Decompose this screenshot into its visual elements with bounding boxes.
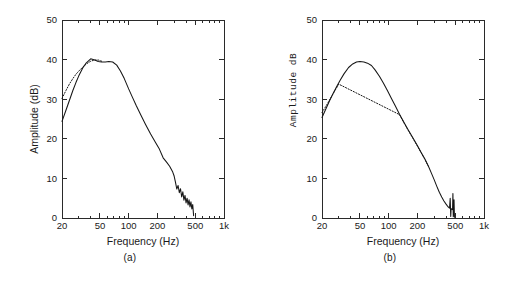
x-tick-label: 1k: [479, 220, 489, 231]
y-tick-label: 20: [306, 133, 317, 144]
x-tick-label: 100: [121, 220, 137, 231]
y-axis-title: Amplitude (dB): [28, 84, 40, 153]
x-axis-title: Frequency (Hz): [107, 235, 179, 247]
x-tick-label: 20: [57, 220, 68, 231]
series-model-dotted: [62, 60, 102, 98]
x-axis-title: Frequency (Hz): [367, 235, 439, 247]
y-tick-label: 30: [46, 94, 57, 105]
panel-caption-b: (b): [260, 252, 520, 263]
series-model-dotted: [322, 84, 428, 166]
figure-root: 20501002005001k01020304050 Frequency (Hz…: [0, 0, 520, 282]
x-tick-label: 500: [447, 220, 463, 231]
x-tick-label: 20: [317, 220, 328, 231]
series-measured-solid: [62, 59, 194, 216]
x-tick-label: 200: [149, 220, 165, 231]
x-tick-label: 100: [381, 220, 397, 231]
y-tick-label: 50: [306, 14, 317, 25]
data-curves: [62, 59, 194, 216]
axis-ticks: [322, 20, 484, 218]
y-tick-label: 50: [46, 14, 57, 25]
x-tick-label: 50: [355, 220, 366, 231]
y-tick-label: 40: [46, 54, 57, 65]
x-tick-label: 1k: [219, 220, 229, 231]
data-curves: [322, 62, 454, 218]
y-axis-title: Amplitude dB: [288, 53, 299, 127]
y-tick-label: 0: [52, 212, 57, 223]
axis-tick-labels: 20501002005001k01020304050: [46, 14, 229, 231]
y-tick-label: 20: [46, 133, 57, 144]
panel-caption-a: (a): [0, 252, 260, 263]
y-tick-label: 10: [46, 173, 57, 184]
x-tick-label: 500: [187, 220, 203, 231]
x-tick-label: 200: [409, 220, 425, 231]
chart-panel-b: 20501002005001k01020304050 Frequency (Hz…: [260, 0, 520, 282]
y-tick-label: 30: [306, 94, 317, 105]
y-tick-label: 40: [306, 54, 317, 65]
series-measured-solid: [322, 62, 454, 218]
chart-svg-b: 20501002005001k01020304050 Frequency (Hz…: [260, 0, 520, 282]
plot-frame: [322, 20, 484, 218]
y-tick-label: 0: [312, 212, 317, 223]
y-tick-label: 10: [306, 173, 317, 184]
chart-svg-a: 20501002005001k01020304050 Frequency (Hz…: [0, 0, 260, 282]
axis-tick-labels: 20501002005001k01020304050: [306, 14, 489, 231]
x-tick-label: 50: [95, 220, 106, 231]
chart-panel-a: 20501002005001k01020304050 Frequency (Hz…: [0, 0, 260, 282]
